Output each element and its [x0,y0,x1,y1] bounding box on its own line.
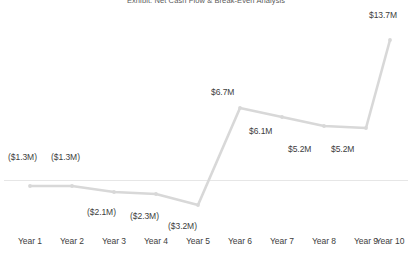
data-label: $6.1M [249,126,272,136]
x-axis-tick-label: Year 7 [262,236,302,246]
x-axis-tick-label: Year 1 [10,236,50,246]
data-label: ($1.3M) [51,152,80,162]
data-label: $6.7M [211,87,234,97]
data-label: $5.2M [331,144,354,154]
x-axis-tick-label: Year 3 [94,236,134,246]
x-axis-tick-label: Year 6 [220,236,260,246]
cash-flow-line-chart: Exhibit: Net Cash Flow & Break-Even Anal… [0,0,412,263]
data-label: ($3.2M) [168,221,197,231]
x-axis-tick-label: Year 10 [368,236,412,246]
x-axis-tick-labels: Year 1 Year 2 Year 3 Year 4 Year 5 Year … [0,236,412,252]
x-axis-tick-label: Year 5 [178,236,218,246]
data-label: $5.2M [288,144,311,154]
x-axis-tick-label: Year 2 [52,236,92,246]
data-label: $13.7M [369,10,397,20]
x-axis-tick-label: Year 8 [304,236,344,246]
x-axis-tick-label: Year 4 [136,236,176,246]
data-label-group: ($1.3M) ($1.3M) ($2.1M) ($2.3M) ($3.2M) … [0,0,412,263]
data-label: ($2.3M) [130,211,159,221]
data-label: ($2.1M) [87,207,116,217]
data-label: ($1.3M) [8,152,37,162]
